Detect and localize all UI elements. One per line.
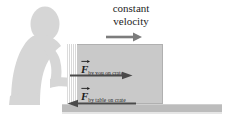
caption-line-velocity: velocity <box>93 15 169 28</box>
table-shadow <box>62 112 222 114</box>
caption-line-constant: constant <box>93 2 169 15</box>
vector-arrow-icon <box>81 58 90 63</box>
velocity-arrow-icon <box>105 32 143 42</box>
physics-figure-pushing-crate: constant velocity F by you on crate F by… <box>0 0 236 121</box>
vector-arrow-icon <box>81 85 90 90</box>
applied-force-arrow-icon <box>69 71 133 80</box>
friction-force-arrow-icon <box>67 99 137 108</box>
constant-velocity-caption: constant velocity <box>93 2 169 27</box>
